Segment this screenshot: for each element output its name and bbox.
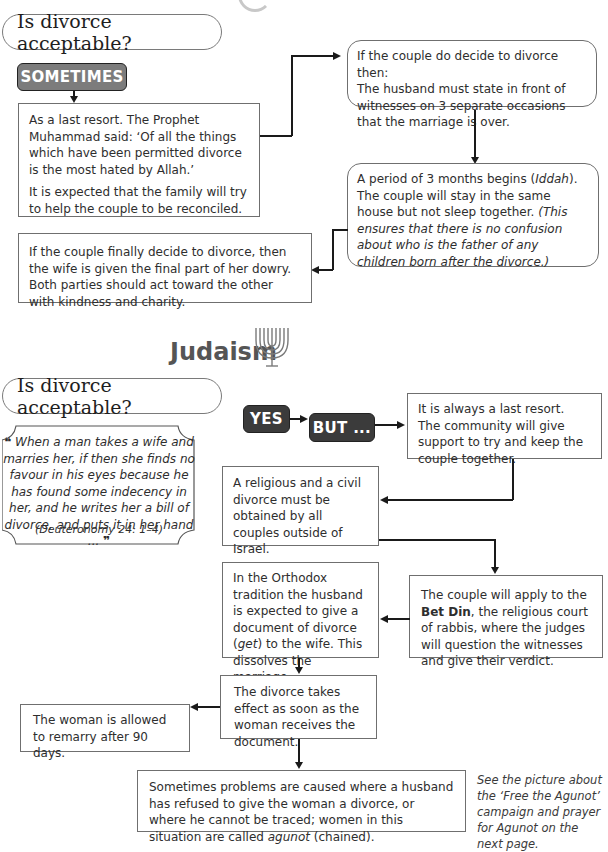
islam-decide-box: If the couple do decide to divorce then:… (347, 40, 597, 107)
islam-question-heading: Is divorce acceptable? (2, 14, 222, 50)
arrow-line (474, 110, 476, 158)
islam-iddah-box: A period of 3 months begins (Iddah). The… (347, 163, 599, 267)
islam-last-resort-box: As a last resort. The Prophet Muhammad s… (18, 103, 260, 217)
remarry-text: The woman is allowed to remarry after 90… (33, 712, 177, 762)
arrow-head-down-icon (295, 667, 303, 674)
yes-label: YES (250, 410, 283, 428)
judaism-question-heading: Is divorce acceptable? (2, 378, 222, 414)
iddah-term: Iddah (535, 172, 569, 186)
judaism-yes-badge: YES (243, 405, 290, 433)
connector-line (512, 459, 514, 500)
agunot-text: Sometimes problems are caused where a hu… (149, 779, 454, 845)
quote-citation: (Deuteronomy 24: 1–4) (2, 522, 196, 539)
judaism-question-text: Is divorce acceptable? (17, 374, 221, 418)
last-resort-line1: It is always a last resort. (418, 401, 591, 418)
islam-sometimes-badge: SOMETIMES (17, 63, 127, 91)
arrow-line (298, 739, 300, 763)
open-quote-icon: ❝ (4, 435, 11, 449)
arrow-head-left-icon (311, 266, 319, 274)
final-dowry-text: If the couple finally decide to divorce,… (29, 244, 301, 310)
arrow-head-right-icon (300, 415, 308, 423)
arrow-head-down-icon (295, 762, 303, 769)
menorah-icon (255, 326, 289, 370)
bet-din-text: The couple will apply to the Bet Din, th… (421, 587, 591, 670)
judaism-but-badge: BUT ... (309, 413, 375, 442)
arrow-head-left-icon (380, 615, 388, 623)
sometimes-label: SOMETIMES (20, 68, 123, 86)
agunot-side-note: See the picture about the ‘Free the Agun… (477, 772, 607, 852)
judaism-remarry-box: The woman is allowed to remarry after 90… (20, 704, 190, 752)
decide-line1: If the couple do decide to divorce then: (357, 48, 587, 81)
connector-line (318, 269, 333, 271)
arrow-head-down-icon (491, 567, 499, 574)
connector-line (379, 539, 495, 541)
last-resort-line2: The community will give support to try a… (418, 418, 591, 468)
connector-line (291, 55, 333, 57)
judaism-bet-din-box: The couple will apply to the Bet Din, th… (409, 575, 603, 658)
judaism-civil-divorce-box: A religious and a civil divorce must be … (222, 466, 379, 546)
civil-divorce-text: A religious and a civil divorce must be … (233, 475, 368, 558)
islam-final-box: If the couple finally decide to divorce,… (18, 233, 312, 303)
arrow-line (375, 424, 397, 426)
arrow-head-right-icon (397, 421, 405, 429)
judaism-orthodox-box: In the Orthodox tradition the husband is… (222, 562, 379, 658)
arrow-head-right-icon (333, 52, 341, 60)
decorative-circle-icon (238, 0, 272, 12)
arrow-head-left-icon (190, 703, 198, 711)
but-label: BUT ... (313, 419, 371, 437)
judaism-last-resort-box: It is always a last resort. The communit… (407, 393, 602, 459)
bet-din-term: Bet Din (421, 605, 471, 619)
connector-line (332, 229, 348, 231)
arrow-head-down-icon (70, 96, 78, 103)
get-term: get (238, 637, 258, 651)
connector-line (388, 499, 513, 501)
arrow-head-left-icon (380, 496, 388, 504)
arrow-line (198, 706, 220, 708)
agunot-term: agunot (268, 830, 310, 844)
connector-line (260, 135, 292, 137)
connector-line (494, 539, 496, 568)
judaism-takes-effect-box: The divorce takes effect as soon as the … (220, 675, 377, 739)
islam-question-text: Is divorce acceptable? (17, 10, 221, 54)
judaism-agunot-box: Sometimes problems are caused where a hu… (137, 770, 466, 832)
islam-reconcile-text: It is expected that the family will try … (29, 184, 249, 217)
connector-line (332, 229, 334, 270)
decide-line2: The husband must state in front of witne… (357, 81, 587, 131)
connector-line (291, 55, 293, 136)
islam-hadith-text: As a last resort. The Prophet Muhammad s… (29, 112, 249, 178)
connector-line (388, 618, 410, 620)
deuteronomy-quote-scroll: ❝ When a man takes a wife and marries he… (2, 424, 192, 542)
iddah-text: A period of 3 months begins (Iddah). The… (357, 171, 589, 270)
